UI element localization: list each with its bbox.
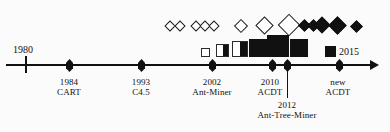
timeline-figure: 2015 1980 1984 CART 1993 C4.5 2002 Ant-M… <box>0 0 390 132</box>
milestone-label-1984: 1984 CART <box>49 77 89 97</box>
milestone-marker-2002 <box>209 59 216 72</box>
milestone-marker-1993 <box>138 59 145 72</box>
diamond-marker <box>174 20 185 31</box>
milestone-marker-new-acdt <box>336 59 343 72</box>
milestone-name: ACDT <box>252 87 288 97</box>
milestone-marker-2010 <box>269 59 276 72</box>
diamond-marker <box>208 20 219 31</box>
milestone-year: 1993 <box>121 77 161 87</box>
diamond-marker <box>350 20 363 33</box>
square-marker <box>267 35 289 57</box>
square-marker <box>249 39 267 57</box>
timeline-axis <box>6 64 372 66</box>
milestone-name: ACDT <box>320 87 356 97</box>
year-label-1980: 1980 <box>13 44 33 55</box>
square-marker <box>290 39 308 57</box>
milestone-year: 2012 <box>237 100 337 110</box>
diamond-marker <box>255 16 273 34</box>
square-marker <box>216 44 229 57</box>
milestone-year: 2002 <box>182 77 242 87</box>
year-label-2015: 2015 <box>339 46 359 57</box>
milestone-name: Ant-Tree-Miner <box>237 110 337 120</box>
milestone-year: 2010 <box>252 77 288 87</box>
milestone-label-2002: 2002 Ant-Miner <box>182 77 242 97</box>
milestone-marker-1984 <box>66 59 73 72</box>
square-marker <box>325 46 336 57</box>
milestone-name: C4.5 <box>121 87 161 97</box>
square-marker <box>232 41 248 57</box>
milestone-label-2012: 2012 Ant-Tree-Miner <box>237 100 337 120</box>
milestone-name: Ant-Miner <box>182 87 242 97</box>
milestone-year: 1984 <box>49 77 89 87</box>
milestone-name: CART <box>49 87 89 97</box>
milestone-label-2010: 2010 ACDT <box>252 77 288 97</box>
axis-arrow-icon <box>370 60 379 70</box>
diamond-marker <box>328 16 346 34</box>
diamond-marker <box>234 19 248 33</box>
milestone-label-new-acdt: new ACDT <box>320 77 356 97</box>
milestone-year: new <box>320 77 356 87</box>
square-marker <box>201 48 210 57</box>
milestone-label-1993: 1993 C4.5 <box>121 77 161 97</box>
